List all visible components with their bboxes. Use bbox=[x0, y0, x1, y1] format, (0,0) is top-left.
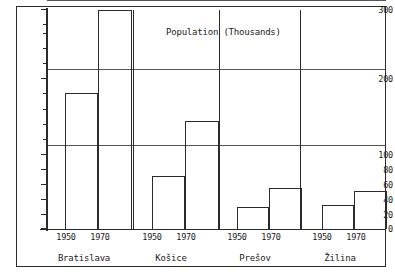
year-label-zilina-1950: 1950 bbox=[305, 233, 339, 242]
year-label-kosice-1970: 1970 bbox=[169, 233, 203, 242]
bar-kosice-1970 bbox=[185, 121, 219, 229]
year-label-kosice-1950: 1950 bbox=[135, 233, 169, 242]
year-label-presov-1950: 1950 bbox=[220, 233, 254, 242]
bar-kosice-1950 bbox=[152, 176, 185, 229]
year-label-bratislava-1970: 1970 bbox=[83, 233, 117, 242]
year-label-presov-1970: 1970 bbox=[254, 233, 288, 242]
city-label-zilina: Žilina bbox=[285, 253, 395, 263]
year-label-bratislava-1950: 1950 bbox=[49, 233, 83, 242]
year-label-zilina-1970: 1970 bbox=[339, 233, 373, 242]
bar-bratislava-1970 bbox=[98, 10, 132, 229]
bar-presov-1950 bbox=[237, 207, 269, 229]
gridline-300 bbox=[47, 0, 386, 1]
bar-zilina-1970 bbox=[354, 191, 387, 229]
bar-bratislava-1950 bbox=[65, 93, 98, 229]
plot-area bbox=[47, 10, 386, 229]
bar-presov-1970 bbox=[269, 188, 302, 229]
bar-zilina-1950 bbox=[322, 205, 354, 229]
